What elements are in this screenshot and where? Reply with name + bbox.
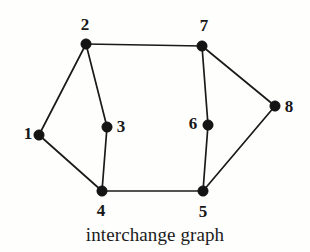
graph-edge-1-4 — [39, 135, 102, 191]
figure-caption: interchange graph — [0, 224, 310, 246]
graph-edge-2-3 — [86, 44, 107, 127]
graph-node-5 — [198, 186, 208, 196]
graph-node-label-3: 3 — [117, 118, 126, 135]
graph-edge-7-8 — [202, 46, 275, 106]
graph-edge-2-7 — [86, 44, 202, 46]
node-layer — [34, 39, 280, 196]
interchange-graph-figure: 12345678 interchange graph — [0, 0, 310, 252]
graph-node-label-5: 5 — [199, 203, 208, 220]
graph-node-7 — [197, 41, 207, 51]
graph-edge-6-7 — [202, 46, 208, 125]
graph-node-label-4: 4 — [97, 202, 106, 219]
edge-layer — [39, 44, 275, 191]
graph-node-4 — [97, 186, 107, 196]
graph-node-label-1: 1 — [24, 125, 33, 142]
graph-edge-1-2 — [39, 44, 86, 135]
graph-node-label-8: 8 — [285, 98, 294, 115]
graph-canvas — [0, 0, 310, 252]
graph-edge-3-4 — [102, 127, 107, 191]
graph-node-3 — [102, 122, 112, 132]
graph-node-label-7: 7 — [200, 17, 209, 34]
graph-node-1 — [34, 130, 44, 140]
graph-node-2 — [81, 39, 91, 49]
graph-edge-5-8 — [203, 106, 275, 191]
graph-node-label-6: 6 — [189, 115, 198, 132]
graph-edge-5-6 — [203, 125, 208, 191]
graph-node-8 — [270, 101, 280, 111]
graph-node-label-2: 2 — [81, 16, 90, 33]
graph-node-6 — [203, 120, 213, 130]
